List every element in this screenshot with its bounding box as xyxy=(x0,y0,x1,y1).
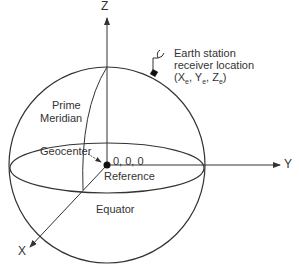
z-axis-label: Z xyxy=(101,0,108,12)
equator-label: Equator xyxy=(96,203,135,215)
y-axis-label: Y xyxy=(284,158,292,170)
earth-station-antenna-icon xyxy=(153,50,164,71)
prime-meridian-label-2: Meridian xyxy=(40,112,82,124)
earth-station-line2: receiver location xyxy=(174,59,254,71)
diagram-graphics xyxy=(0,0,299,273)
geocentric-coordinate-diagram: Z Y X Prime Meridian Geocenter 0, 0, 0 R… xyxy=(0,0,299,273)
reference-label: Reference xyxy=(104,170,155,182)
x-axis-label: X xyxy=(18,245,26,257)
geocenter-label: Geocenter xyxy=(40,145,91,157)
earth-station-marker xyxy=(150,69,158,77)
earth-station-label: Earth station receiver location (Xe, Ye,… xyxy=(174,47,254,88)
geocenter-dot xyxy=(104,162,111,169)
earth-station-coords: (Xe, Ye, Ze) xyxy=(174,71,254,88)
earth-station-line1: Earth station xyxy=(174,47,254,59)
prime-meridian-label-1: Prime xyxy=(52,99,81,111)
origin-label: 0, 0, 0 xyxy=(113,155,144,167)
